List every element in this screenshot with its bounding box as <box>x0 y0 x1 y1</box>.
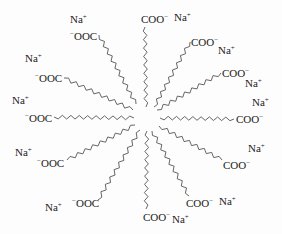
sodium-ion-label: Na+ <box>70 14 87 25</box>
hydrocarbon-chain <box>154 42 190 107</box>
sodium-ion-label: Na+ <box>252 97 269 108</box>
hydrocarbon-chain <box>67 125 135 160</box>
carboxylate-head-label: −OOC <box>35 73 62 84</box>
sodium-ion-label: Na+ <box>245 78 262 89</box>
hydrocarbon-chain <box>157 73 221 110</box>
hydrocarbon-chain <box>54 115 134 119</box>
sodium-ion-label: Na+ <box>219 196 236 207</box>
carboxylate-head-label: COO− <box>186 198 213 209</box>
hydrocarbon-chain <box>143 27 147 107</box>
sodium-ion-label: Na+ <box>174 12 191 23</box>
hydrocarbon-chain <box>98 130 140 200</box>
sodium-ion-label: Na+ <box>12 95 29 106</box>
hydrocarbon-chain <box>159 126 222 160</box>
sodium-ion-label: Na+ <box>218 45 235 56</box>
carboxylate-head-label: −OOC <box>72 198 99 209</box>
hydrocarbon-chain <box>99 35 136 104</box>
sodium-ion-label: Na+ <box>25 53 42 64</box>
carboxylate-head-label: −OOC <box>70 31 97 42</box>
carboxylate-head-label: COO− <box>236 114 263 125</box>
hydrocarbon-chain <box>144 131 148 209</box>
carboxylate-head-label: COO− <box>191 37 218 48</box>
carboxylate-head-label: COO− <box>143 212 170 223</box>
hydrocarbon-chain <box>160 116 234 120</box>
sodium-ion-label: Na+ <box>248 143 265 154</box>
sodium-ion-label: Na+ <box>45 202 62 213</box>
sodium-ion-label: Na+ <box>15 147 32 158</box>
carboxylate-head-label: COO− <box>223 160 250 171</box>
micelle-diagram: COO−Na+COO−Na+COO−Na+COO−Na+COO−Na+COO−N… <box>0 0 282 234</box>
carboxylate-head-label: −OOC <box>37 158 64 169</box>
carboxylate-head-label: −OOC <box>25 113 52 124</box>
sodium-ion-label: Na+ <box>172 214 189 225</box>
carboxylate-head-label: COO− <box>141 14 168 25</box>
